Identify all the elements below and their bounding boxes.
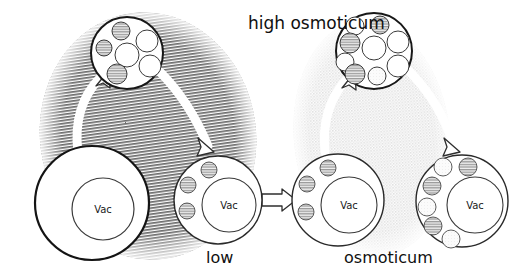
cell4-vesicle-clear (434, 158, 452, 176)
cell4-vesicle-hatched (459, 158, 477, 176)
cell-vesiculated-osmoticum: Vac (416, 155, 508, 248)
inset2-vesicle-hatched (345, 64, 365, 84)
label-high-osmoticum: high osmoticum (248, 13, 385, 33)
label-osmoticum: osmoticum (344, 248, 433, 267)
inset1-vesicle-clear (136, 30, 158, 52)
label-low: low (206, 248, 233, 267)
inset1-vesicle-hatched (107, 64, 127, 84)
cell3-vesicle-hatched (320, 160, 336, 176)
cell-turgid-high-osmoticum: Vac (35, 146, 149, 260)
cell2-vesicle-hatched (180, 177, 196, 193)
inset-membrane-high-osmoticum (91, 17, 163, 89)
cell3-vacuole-label: Vac (340, 200, 358, 211)
cell2-vesicle-hatched (179, 203, 195, 219)
inset2-vesicle-clear (387, 55, 409, 77)
inset1-vesicle-clear (115, 43, 139, 67)
inset2-vesicle-hatched (340, 33, 360, 53)
inset2-vesicle-clear (368, 67, 386, 85)
cell2-vesicle-hatched (201, 162, 217, 178)
inset1-vesicle-hatched (96, 40, 112, 56)
cell3-vesicle-hatched (298, 204, 314, 220)
cell4-vesicle-hatched (423, 177, 441, 195)
inset2-vesicle-clear (387, 31, 409, 53)
cell4-vesicle-clear (442, 230, 460, 248)
cell2-vacuole-label: Vac (220, 200, 238, 211)
cell3-vesicle-hatched (299, 176, 315, 192)
inset1-vesicle-hatched (112, 22, 130, 40)
inset2-vesicle-clear (362, 36, 386, 60)
cell-plasmolysed-low: Vac (174, 156, 262, 244)
cell1-vacuole-label: Vac (94, 204, 112, 215)
cell4-vesicle-hatched (424, 217, 442, 235)
inset1-vesicle-clear (139, 55, 161, 77)
cell4-vacuole-label: Vac (466, 200, 484, 211)
diagram-canvas: Vac Vac Vac (0, 0, 528, 276)
cell4-vesicle-clear (418, 198, 436, 216)
protoplast-osmoticum-figure: Vac Vac Vac (0, 0, 528, 276)
cell-plasmolysed-osmoticum: Vac (292, 154, 384, 246)
